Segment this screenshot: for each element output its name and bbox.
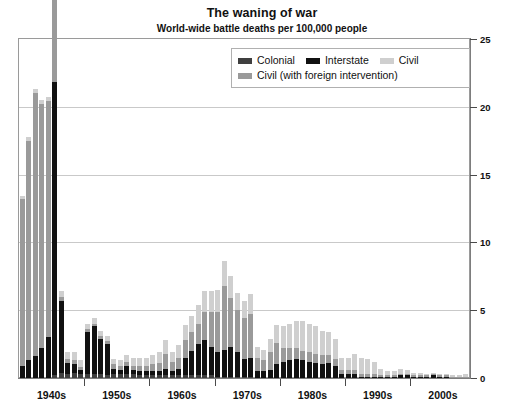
bar-1965[interactable] (183, 325, 188, 378)
bar-1973[interactable] (235, 293, 240, 378)
bar-1945[interactable] (52, 0, 57, 378)
bar-segment-interstate (33, 356, 38, 378)
bar-1984[interactable] (307, 324, 312, 378)
bar-1962[interactable] (163, 340, 168, 378)
bar-segment-civil-foreign (235, 310, 240, 352)
bar-segment-interstate (326, 363, 331, 378)
bar-1943[interactable] (39, 100, 44, 378)
bar-1952[interactable] (98, 331, 103, 378)
legend-item-interstate[interactable]: Interstate (306, 55, 369, 66)
bar-1972[interactable] (228, 276, 233, 378)
bar-1953[interactable] (105, 336, 110, 378)
bar-1987[interactable] (326, 332, 331, 378)
bar-segment-civil-foreign (398, 374, 403, 375)
bar-1941[interactable] (26, 137, 31, 378)
bar-segment-interstate (255, 371, 260, 378)
bar-1994[interactable] (372, 362, 377, 378)
bar-1966[interactable] (189, 316, 194, 378)
bar-segment-civil-foreign (59, 297, 64, 301)
bar-1977[interactable] (261, 350, 266, 378)
bar-1985[interactable] (313, 326, 318, 378)
bar-1989[interactable] (339, 358, 344, 378)
bar-segment-civil (124, 355, 129, 362)
bar-segment-interstate (26, 360, 31, 378)
bar-1949[interactable] (78, 360, 83, 378)
bar-1947[interactable] (65, 352, 70, 378)
bar-segment-civil (320, 331, 325, 355)
bar-1969[interactable] (209, 291, 214, 378)
legend-label-civil: Civil (399, 55, 419, 66)
bar-segment-interstate (209, 347, 214, 375)
bar-segment-civil (157, 352, 162, 363)
bar-segment-civil (287, 324, 292, 348)
bar-1978[interactable] (268, 339, 273, 378)
bar-1961[interactable] (157, 352, 162, 378)
bar-segment-civil-foreign (372, 374, 377, 377)
bar-segment-interstate (222, 350, 227, 377)
bar-1954[interactable] (111, 359, 116, 378)
bar-1971[interactable] (222, 261, 227, 378)
bar-segment-civil-foreign (137, 366, 142, 371)
bar-1974[interactable] (242, 301, 247, 378)
bar-segment-interstate (287, 360, 292, 378)
bar-1996[interactable] (385, 371, 390, 378)
bar-1970[interactable] (215, 290, 220, 378)
bar-1942[interactable] (33, 89, 38, 378)
bar-1950[interactable] (85, 324, 90, 378)
bar-1999[interactable] (405, 370, 410, 378)
bar-segment-civil (78, 360, 83, 367)
bar-segment-interstate (163, 369, 168, 376)
bar-segment-civil-foreign (359, 374, 364, 377)
bar-1998[interactable] (398, 369, 403, 378)
bar-segment-civil (189, 316, 194, 332)
bar-1986[interactable] (320, 331, 325, 378)
bar-1951[interactable] (92, 318, 97, 378)
bar-1983[interactable] (300, 321, 305, 378)
bar-segment-civil-foreign (78, 367, 83, 370)
bar-1982[interactable] (294, 321, 299, 378)
bar-segment-civil (46, 97, 51, 101)
bar-1963[interactable] (170, 352, 175, 378)
bar-segment-interstate (59, 301, 64, 373)
bar-segment-civil-foreign (85, 329, 90, 332)
bar-1957[interactable] (131, 358, 136, 378)
bar-segment-civil (444, 374, 449, 375)
bar-1991[interactable] (352, 354, 357, 378)
legend-item-civil[interactable]: Civil (380, 55, 419, 66)
bar-1995[interactable] (378, 369, 383, 378)
bar-1997[interactable] (392, 371, 397, 378)
bar-1956[interactable] (124, 355, 129, 378)
bar-1958[interactable] (137, 358, 142, 378)
bar-1993[interactable] (365, 359, 370, 378)
bar-1976[interactable] (255, 347, 260, 378)
bar-1946[interactable] (59, 291, 64, 378)
bar-1992[interactable] (359, 358, 364, 378)
bar-segment-interstate (144, 371, 149, 375)
bar-segment-civil (437, 374, 442, 375)
bar-1990[interactable] (346, 358, 351, 378)
x-tick-1960s (149, 379, 150, 386)
bar-1955[interactable] (118, 360, 123, 378)
bar-1980[interactable] (281, 326, 286, 378)
bar-1979[interactable] (274, 325, 279, 378)
bar-1967[interactable] (196, 305, 201, 378)
bar-1964[interactable] (176, 345, 181, 378)
legend-label-interstate: Interstate (325, 55, 369, 66)
legend-item-colonial[interactable]: Colonial (238, 55, 295, 66)
bar-1940[interactable] (20, 196, 25, 378)
bar-segment-civil (98, 331, 103, 336)
bar-segment-civil-foreign (52, 0, 57, 82)
legend-item-civil-foreign[interactable]: Civil (with foreign intervention) (238, 70, 398, 81)
bar-1981[interactable] (287, 324, 292, 378)
bar-1988[interactable] (333, 339, 338, 378)
bar-1944[interactable] (46, 97, 51, 378)
bar-1960[interactable] (150, 355, 155, 378)
bar-segment-civil (111, 359, 116, 364)
bar-1975[interactable] (248, 294, 253, 378)
bar-segment-interstate (313, 363, 318, 378)
bar-1968[interactable] (202, 291, 207, 378)
bar-segment-interstate (202, 340, 207, 375)
bar-1948[interactable] (72, 352, 77, 378)
bar-segment-civil-foreign (92, 324, 97, 327)
bar-1959[interactable] (144, 358, 149, 378)
